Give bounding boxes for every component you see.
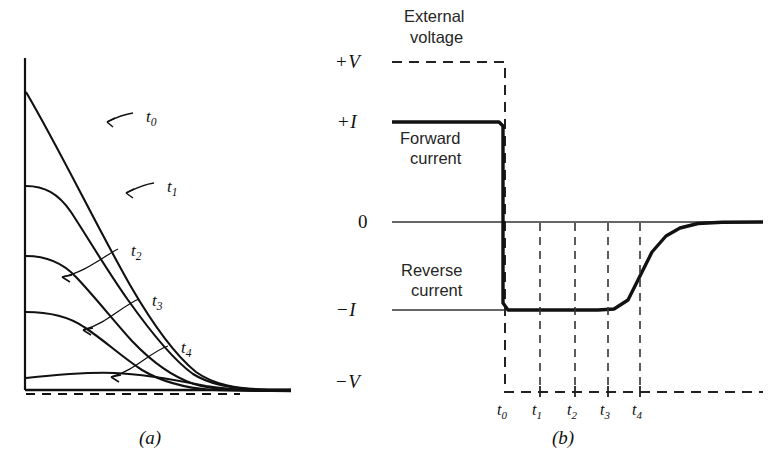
reverse-current-label-line1: Reverse	[401, 262, 462, 279]
panel-a-curve-t3	[26, 312, 291, 391]
reverse-current-label-line2: current	[411, 282, 462, 299]
figure-container: t0 t1 t2 t3 t4 (a) External voltage Forw…	[0, 0, 782, 463]
panel-a-callout-t1	[126, 183, 154, 198]
panel-a-label-t4: t4	[181, 339, 191, 360]
panel-a-label-t2: t2	[131, 242, 141, 263]
forward-current-label-line1: Forward	[400, 130, 461, 147]
panel-b-caption: (b)	[552, 428, 574, 447]
panel-a-callout-t4	[111, 346, 168, 382]
panel-b-external-voltage-dashed	[392, 62, 763, 392]
panel-b-graphic	[392, 62, 763, 397]
y-label-minus-v: − V	[336, 372, 360, 391]
x-tick-label-t0: t0	[497, 402, 507, 421]
y-label-zero: 0	[358, 212, 368, 231]
forward-current-label-line2: current	[410, 150, 461, 167]
panel-a-caption: (a)	[139, 428, 161, 447]
figure-drawing	[0, 0, 782, 463]
y-label-plus-v: + V	[336, 52, 360, 71]
panel-a-label-t1: t1	[167, 178, 177, 199]
panel-a-label-t0: t0	[146, 108, 156, 129]
panel-a-label-t3: t3	[152, 292, 162, 313]
y-label-minus-i: − I	[337, 300, 356, 319]
x-tick-label-t1: t1	[532, 402, 542, 421]
y-label-plus-i: + I	[338, 112, 357, 131]
external-voltage-label-line2: voltage	[410, 29, 463, 46]
external-voltage-label-line1: External	[404, 8, 465, 25]
panel-a-callout-t2	[62, 249, 118, 282]
x-tick-label-t2: t2	[567, 402, 577, 421]
panel-a-graphic	[25, 58, 291, 394]
panel-a-curve-t1	[26, 186, 291, 390]
x-tick-label-t3: t3	[600, 402, 610, 421]
panel-a-curve-t0	[26, 92, 291, 390]
panel-a-callout-t0	[107, 113, 133, 127]
x-tick-label-t4: t4	[632, 402, 642, 421]
